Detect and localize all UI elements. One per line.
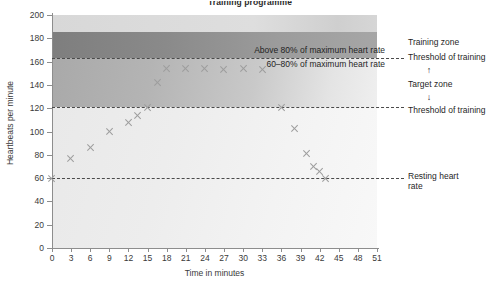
y-tick [47,108,52,109]
data-point-marker [153,78,162,87]
y-tick [47,201,52,202]
x-tick [128,248,129,252]
x-tick-label: 18 [162,254,171,263]
x-tick [71,248,72,252]
x-tick-label: 51 [372,254,381,263]
legend-threshold-upper: Threshold of training [408,53,486,63]
x-tick [90,248,91,252]
y-tick-label: 80 [35,151,44,160]
y-tick-label: 180 [30,34,44,43]
y-tick-label: 120 [30,104,44,113]
y-tick-label: 100 [30,127,44,136]
data-point-marker [105,127,114,136]
x-axis-label: Time in minutes [52,268,377,278]
zone-annotation-1: 60–80% of maximum heart rate [0,59,385,69]
data-point-marker [143,103,152,112]
y-tick [47,38,52,39]
x-tick-label: 30 [238,254,247,263]
y-tick-label: 0 [39,244,44,253]
legend-threshold-lower: Threshold of training [408,106,486,116]
y-tick [47,15,52,16]
x-tick [109,248,110,252]
x-tick [320,248,321,252]
x-tick [339,248,340,252]
data-point-marker [290,124,299,133]
x-tick [262,248,263,252]
x-tick-label: 15 [143,254,152,263]
arrow-up-icon: ↑ [427,66,432,75]
data-point-marker [322,174,331,183]
x-tick [377,248,378,252]
data-point-marker [48,174,57,183]
y-axis-label-wrap: Heartbeats per minute [0,0,15,296]
arrow-down-icon: ↓ [427,93,432,102]
x-tick [52,248,53,252]
data-point-marker [302,149,311,158]
x-tick-label: 42 [315,254,324,263]
y-tick-label: 200 [30,11,44,20]
x-tick-label: 39 [296,254,305,263]
reference-line-121 [52,107,404,108]
y-tick-label: 60 [35,174,44,183]
x-tick-label: 9 [107,254,112,263]
y-tick-label: 140 [30,81,44,90]
x-tick [167,248,168,252]
x-tick-label: 21 [181,254,190,263]
x-tick-label: 12 [124,254,133,263]
chart-root: Training programme 020406080100120140160… [0,0,500,296]
data-point-marker [124,118,133,127]
x-tick-label: 27 [219,254,228,263]
band-above-max [52,15,377,32]
chart-title: Training programme [0,0,500,7]
x-tick-label: 6 [88,254,93,263]
x-tick [358,248,359,252]
x-tick [243,248,244,252]
x-tick-label: 24 [200,254,209,263]
x-tick [301,248,302,252]
zone-annotation-0: Above 80% of maximum heart rate [0,45,385,55]
x-tick-label: 45 [334,254,343,263]
x-tick-label: 36 [277,254,286,263]
y-axis-label: Heartbeats per minute [5,63,15,183]
y-tick [47,155,52,156]
x-tick-label: 33 [258,254,267,263]
x-tick-label: 3 [69,254,74,263]
x-tick [148,248,149,252]
x-tick [281,248,282,252]
x-tick [224,248,225,252]
data-point-marker [277,103,286,112]
y-tick [47,85,52,86]
x-tick-label: 0 [50,254,55,263]
y-tick [47,225,52,226]
legend-training-zone: Training zone [408,38,459,48]
x-tick [205,248,206,252]
x-axis-line [50,248,379,249]
data-point-marker [134,111,143,120]
x-tick-label: 48 [353,254,362,263]
data-point-marker [67,154,76,163]
data-point-marker [86,143,95,152]
legend-target-zone: Target zone [408,80,452,90]
y-tick-label: 20 [35,220,44,229]
reference-line-60 [52,178,404,179]
y-tick-label: 40 [35,197,44,206]
y-tick [47,132,52,133]
legend-resting-heart-rate: Resting heart rate [408,172,478,191]
x-tick [186,248,187,252]
